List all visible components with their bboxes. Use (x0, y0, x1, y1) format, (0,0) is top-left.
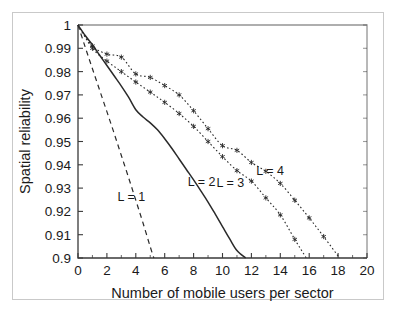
y-tick-label: 0.9 (52, 251, 71, 266)
x-tick-label: 14 (273, 263, 289, 278)
axis-spines (78, 25, 367, 258)
data-point-marker (162, 83, 167, 88)
x-tick-label: 0 (74, 263, 82, 278)
axis-box-closure (78, 25, 367, 258)
data-point-marker (134, 79, 139, 84)
y-tick-label: 0.95 (45, 135, 71, 150)
x-tick-label: 16 (302, 263, 317, 278)
series-label-4: L = 4 (256, 164, 284, 178)
data-point-marker (177, 111, 182, 116)
data-point-marker (220, 154, 225, 159)
y-tick-label: 0.99 (45, 41, 71, 56)
data-point-marker (206, 126, 211, 131)
x-tick-label: 2 (103, 263, 111, 278)
y-tick-label: 0.92 (45, 204, 71, 219)
y-tick-label: 0.94 (45, 158, 72, 173)
data-point-marker (249, 160, 254, 165)
x-tick-label: 6 (161, 263, 169, 278)
data-point-marker (105, 52, 110, 57)
data-point-marker (119, 69, 124, 74)
series-label-1: L = 1 (118, 190, 146, 204)
spatial-reliability-chart: 024681012141618200.90.910.920.930.940.95… (0, 0, 399, 315)
x-tick-label: 20 (359, 263, 374, 278)
data-point-marker (235, 168, 240, 173)
series-label-3: L = 3 (217, 176, 245, 190)
y-tick-label: 0.91 (45, 228, 71, 243)
x-tick-label: 12 (244, 263, 259, 278)
series-label-2: L = 2 (188, 175, 216, 189)
data-point-marker (278, 181, 283, 186)
series-curve-3 (78, 25, 306, 258)
y-tick-label: 1 (63, 18, 71, 33)
series-curve-1 (78, 25, 154, 258)
data-point-marker (293, 237, 298, 242)
y-tick-label: 0.97 (45, 88, 71, 103)
x-tick-label: 10 (215, 263, 230, 278)
y-axis-title: Spatial reliability (17, 88, 33, 194)
figure-container: 024681012141618200.90.910.920.930.940.95… (0, 0, 399, 315)
y-tick-label: 0.98 (45, 65, 71, 80)
x-tick-label: 8 (190, 263, 198, 278)
plot-layer: 024681012141618200.90.910.920.930.940.95… (17, 18, 375, 301)
y-tick-label: 0.96 (45, 111, 71, 126)
data-point-marker (264, 195, 269, 200)
data-point-marker (235, 148, 240, 153)
x-tick-label: 4 (132, 263, 140, 278)
x-tick-label: 18 (331, 263, 346, 278)
y-tick-label: 0.93 (45, 181, 71, 196)
series-curve-2 (78, 25, 246, 258)
x-axis-title: Number of mobile users per sector (111, 285, 334, 301)
data-point-marker (206, 139, 211, 144)
data-point-marker (119, 55, 124, 60)
data-point-marker (148, 90, 153, 95)
data-point-marker (177, 92, 182, 97)
